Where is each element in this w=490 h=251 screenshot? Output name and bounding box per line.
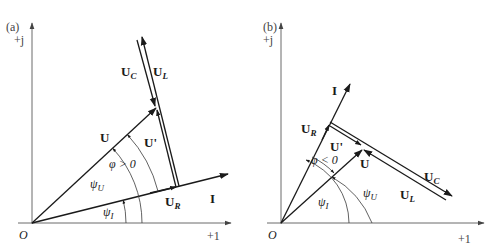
voltage-vector-a — [32, 108, 156, 223]
phasor-diagram: (a) +j +1 O I U UR U' UL UC — [0, 0, 490, 251]
inductor-voltage-label-b: UL — [400, 187, 415, 204]
current-label-a: I — [210, 191, 215, 206]
phi-label-b: φ < 0 — [311, 153, 338, 167]
psi-i-label-a: ψI — [103, 205, 114, 221]
psi-u-label-b: ψU — [363, 186, 377, 202]
resistor-voltage-vector-b — [322, 125, 329, 140]
panel-label-b: (b) — [263, 20, 277, 34]
u-prime-label-a: U' — [144, 135, 157, 150]
voltage-label-a: U — [100, 130, 110, 145]
u-prime-label-b: U' — [330, 139, 343, 154]
inductor-voltage-label-a: UL — [153, 64, 168, 81]
real-axis-label-b: +1 — [458, 232, 471, 246]
imag-axis-label-a: +j — [14, 33, 24, 47]
panel-a: (a) +j +1 O I U UR U' UL UC — [6, 20, 231, 243]
psi-u-arc-b — [332, 177, 372, 223]
imag-axis-label-b: +j — [263, 33, 273, 47]
psi-i-arc-b — [306, 160, 349, 223]
resistor-voltage-label-a: UR — [165, 194, 180, 211]
psi-i-arc-a — [123, 200, 126, 223]
phi-label-a: φ > 0 — [109, 157, 136, 171]
psi-i-label-b: ψI — [318, 195, 329, 211]
resistor-voltage-vector-a — [150, 187, 176, 193]
resistor-voltage-label-b: UR — [301, 121, 316, 138]
real-axis-label-a: +1 — [207, 229, 220, 243]
capacitor-voltage-label-b: UC — [424, 169, 440, 186]
voltage-label-b: U — [360, 156, 370, 171]
panel-label-a: (a) — [6, 20, 19, 34]
u-prime-vector-a — [157, 110, 176, 187]
origin-label-b: O — [268, 228, 277, 242]
current-label-b: I — [332, 83, 337, 98]
current-vector-a — [32, 174, 228, 223]
panel-b: (b) +j +1 O I UR U U' UC UL — [263, 20, 484, 246]
origin-label-a: O — [19, 228, 28, 242]
capacitor-voltage-label-a: UC — [121, 64, 137, 81]
psi-u-label-a: ψU — [90, 177, 104, 193]
